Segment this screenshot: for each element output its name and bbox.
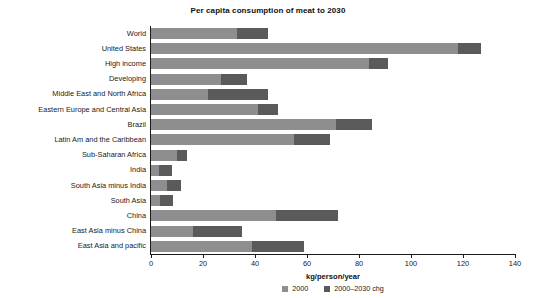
bar-segment-change bbox=[276, 210, 338, 221]
bar-segment-change bbox=[258, 104, 279, 115]
chart-bar-row: Middle East and North Africa bbox=[151, 87, 515, 102]
x-axis-tick bbox=[151, 254, 152, 258]
category-label: China bbox=[127, 212, 146, 219]
stacked-bar bbox=[151, 104, 278, 115]
stacked-bar bbox=[151, 226, 242, 237]
category-label: East Asia and pacific bbox=[78, 243, 146, 250]
category-label: Sub-Saharan Africa bbox=[82, 151, 146, 158]
bar-segment-2000 bbox=[151, 195, 160, 206]
bar-segment-2000 bbox=[151, 89, 208, 100]
x-axis-tick-label: 80 bbox=[355, 259, 363, 268]
bar-segment-2000 bbox=[151, 104, 258, 115]
stacked-bar bbox=[151, 134, 330, 145]
bar-segment-2000 bbox=[151, 119, 336, 130]
x-axis-tick-label: 0 bbox=[149, 259, 153, 268]
bar-segment-change bbox=[369, 58, 387, 69]
x-axis-tick-label: 20 bbox=[199, 259, 207, 268]
chart-title: Per capita consumption of meat to 2030 bbox=[0, 6, 536, 15]
x-axis-tick bbox=[463, 254, 464, 258]
plot-area: WorldUnited StatesHigh incomeDevelopingM… bbox=[151, 26, 515, 254]
stacked-bar bbox=[151, 119, 372, 130]
bar-segment-2000 bbox=[151, 226, 193, 237]
chart-bar-row: Sub-Saharan Africa bbox=[151, 148, 515, 163]
bar-segment-change bbox=[458, 43, 481, 54]
stacked-bar bbox=[151, 165, 172, 176]
legend-label: 2000 bbox=[292, 284, 308, 293]
legend-swatch-icon bbox=[324, 286, 330, 292]
x-axis-tick bbox=[307, 254, 308, 258]
bar-segment-2000 bbox=[151, 43, 458, 54]
x-axis-tick-label: 100 bbox=[405, 259, 417, 268]
bar-segment-change bbox=[193, 226, 242, 237]
legend-item-2000: 2000 bbox=[282, 284, 308, 293]
x-axis-title: kg/person/year bbox=[151, 272, 515, 281]
legend-item-chg: 2000–2030 chg bbox=[324, 284, 384, 293]
bar-segment-change bbox=[294, 134, 330, 145]
bar-segment-change bbox=[177, 150, 187, 161]
chart-bar-row: Latin Am and the Caribbean bbox=[151, 132, 515, 147]
chart-bar-row: High income bbox=[151, 56, 515, 71]
bar-segment-change bbox=[208, 89, 268, 100]
category-label: Eastern Europe and Central Asia bbox=[38, 106, 146, 113]
chart-bar-row: Eastern Europe and Central Asia bbox=[151, 102, 515, 117]
chart-bar-row: World bbox=[151, 26, 515, 41]
x-axis-tick bbox=[255, 254, 256, 258]
category-label: World bbox=[127, 30, 146, 37]
x-axis-tick-label: 40 bbox=[251, 259, 259, 268]
stacked-bar bbox=[151, 43, 481, 54]
chart-bar-row: Brazil bbox=[151, 117, 515, 132]
category-label: India bbox=[130, 167, 146, 174]
bar-segment-2000 bbox=[151, 210, 276, 221]
chart-bar-row: South Asia bbox=[151, 193, 515, 208]
bar-segment-change bbox=[159, 165, 172, 176]
bar-segment-2000 bbox=[151, 180, 167, 191]
bar-segment-2000 bbox=[151, 28, 237, 39]
bar-segment-change bbox=[167, 180, 181, 191]
category-label: South Asia minus India bbox=[71, 182, 146, 189]
category-label: East Asia minus China bbox=[72, 227, 146, 234]
bar-segment-change bbox=[221, 74, 247, 85]
stacked-bar bbox=[151, 58, 388, 69]
bar-segment-2000 bbox=[151, 134, 294, 145]
chart-bar-row: India bbox=[151, 163, 515, 178]
legend-label: 2000–2030 chg bbox=[334, 284, 384, 293]
category-label: South Asia bbox=[111, 197, 146, 204]
category-label: High income bbox=[105, 60, 146, 67]
stacked-bar bbox=[151, 89, 268, 100]
chart-bar-row: South Asia minus India bbox=[151, 178, 515, 193]
legend-swatch-icon bbox=[282, 286, 288, 292]
bar-segment-2000 bbox=[151, 74, 221, 85]
x-axis-tick-label: 140 bbox=[509, 259, 521, 268]
stacked-bar bbox=[151, 28, 268, 39]
chart-bar-row: Developing bbox=[151, 72, 515, 87]
bar-segment-2000 bbox=[151, 58, 369, 69]
chart-legend: 2000 2000–2030 chg bbox=[151, 284, 515, 293]
x-axis-tick-label: 60 bbox=[303, 259, 311, 268]
bar-segment-2000 bbox=[151, 150, 177, 161]
stacked-bar bbox=[151, 195, 173, 206]
stacked-bar bbox=[151, 210, 338, 221]
category-label: Latin Am and the Caribbean bbox=[54, 136, 146, 143]
stacked-bar bbox=[151, 74, 247, 85]
chart-bar-row: China bbox=[151, 208, 515, 223]
stacked-bar bbox=[151, 241, 304, 252]
bar-segment-change bbox=[252, 241, 304, 252]
chart-bar-row: East Asia minus China bbox=[151, 224, 515, 239]
category-label: United States bbox=[102, 45, 146, 52]
bar-segment-2000 bbox=[151, 165, 159, 176]
bar-segment-change bbox=[160, 195, 173, 206]
category-label: Developing bbox=[109, 75, 146, 82]
stacked-bar bbox=[151, 180, 181, 191]
x-axis-tick bbox=[203, 254, 204, 258]
x-axis-tick bbox=[359, 254, 360, 258]
bar-segment-change bbox=[237, 28, 268, 39]
x-axis-tick bbox=[515, 254, 516, 258]
chart-bar-row: United States bbox=[151, 41, 515, 56]
x-axis-tick bbox=[411, 254, 412, 258]
chart-bar-row: East Asia and pacific bbox=[151, 239, 515, 254]
x-axis-tick-label: 120 bbox=[457, 259, 469, 268]
bar-segment-2000 bbox=[151, 241, 252, 252]
stacked-bar bbox=[151, 150, 187, 161]
category-label: Middle East and North Africa bbox=[52, 91, 146, 98]
chart-container: Per capita consumption of meat to 2030 W… bbox=[0, 0, 536, 298]
